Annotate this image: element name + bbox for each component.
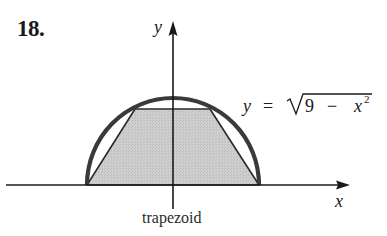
diagram: y x y = 9 − x 2 — [0, 0, 387, 236]
svg-text:2: 2 — [364, 93, 370, 105]
trapezoid-caption: trapezoid — [142, 209, 202, 227]
svg-text:=: = — [263, 96, 273, 116]
y-axis-label: y — [152, 17, 162, 37]
x-axis-label: x — [334, 191, 343, 211]
svg-text:−: − — [327, 96, 337, 116]
x-axis-arrow-icon — [336, 181, 350, 190]
svg-text:y: y — [241, 96, 251, 116]
curve-equation: y = 9 − x 2 — [241, 93, 372, 116]
svg-text:x: x — [353, 96, 362, 116]
svg-text:9: 9 — [305, 96, 314, 116]
